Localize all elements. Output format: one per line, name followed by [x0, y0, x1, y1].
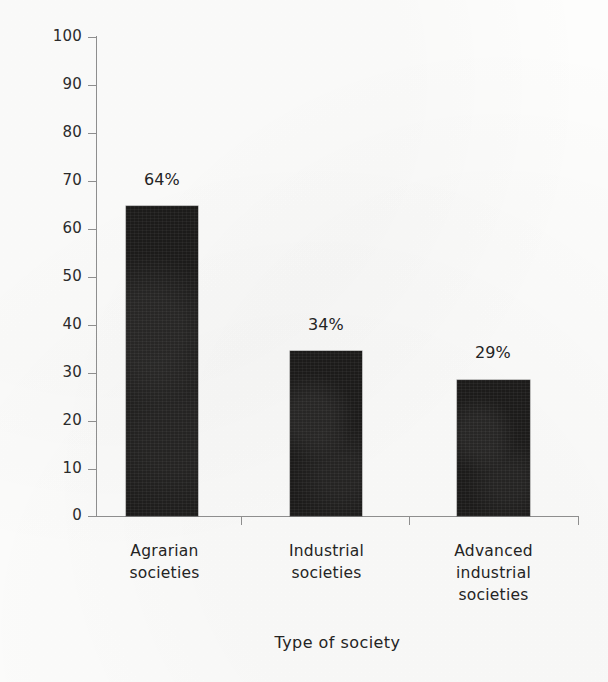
category-label-line: Advanced — [421, 540, 566, 562]
y-axis-tick-label: 60 — [36, 221, 82, 236]
x-axis-tick — [578, 516, 579, 525]
y-axis-tick-label: 90 — [36, 77, 82, 92]
y-axis-tick-label-text: 40 — [42, 317, 82, 332]
y-axis-tick-label-text: 50 — [42, 269, 82, 284]
y-axis-tick-label-text: 20 — [42, 413, 82, 428]
y-axis-tick-label-text: 0 — [42, 508, 82, 523]
x-axis-title: Type of society — [96, 634, 579, 652]
y-axis-tick — [88, 277, 96, 278]
y-axis-tick-label: 20 — [36, 413, 82, 428]
y-axis-tick — [88, 37, 96, 38]
y-axis-tick — [88, 421, 96, 422]
y-axis-tick — [88, 229, 96, 230]
x-axis-line — [96, 516, 579, 517]
y-axis-tick-label-text: 30 — [42, 365, 82, 380]
x-axis-tick — [241, 516, 242, 525]
y-axis-tick-label: 70 — [36, 173, 82, 188]
y-axis-tick — [88, 133, 96, 134]
y-axis-tick-label-text: 70 — [42, 173, 82, 188]
y-axis-tick — [88, 469, 96, 470]
bar-advanced-industrial-societies — [457, 380, 530, 516]
x-axis-tick — [409, 516, 410, 525]
bar-value-label-industrial: 34% — [276, 317, 376, 333]
y-axis-tick — [88, 373, 96, 374]
y-axis-tick-label-text: 80 — [42, 125, 82, 140]
y-axis-tick — [88, 181, 96, 182]
y-axis-tick-label: 0 — [36, 508, 82, 523]
bar-chart-figure: 100 90 80 70 60 50 40 30 — [0, 0, 608, 682]
x-axis-category-label-industrial: Industrial societies — [254, 540, 399, 584]
category-label-line: societies — [92, 562, 237, 584]
category-label-line: societies — [421, 584, 566, 606]
y-axis-tick-label: 10 — [36, 461, 82, 476]
y-axis-tick — [88, 516, 96, 517]
x-axis-category-label-agrarian: Agrarian societies — [92, 540, 237, 584]
y-axis-tick-label-text: 10 — [42, 461, 82, 476]
category-label-line: industrial — [421, 562, 566, 584]
y-axis-tick-label: 40 — [36, 317, 82, 332]
bar-value-label-advanced-industrial: 29% — [443, 345, 543, 361]
plot-area: 100 90 80 70 60 50 40 30 — [0, 0, 608, 682]
y-axis-tick-label-text: 60 — [42, 221, 82, 236]
x-axis-category-label-advanced-industrial: Advanced industrial societies — [421, 540, 566, 606]
category-label-line: Industrial — [254, 540, 399, 562]
y-axis-tick-label: 50 — [36, 269, 82, 284]
y-axis-tick-label-text: 90 — [42, 77, 82, 92]
bar-agrarian-societies — [126, 206, 198, 516]
category-label-line: societies — [254, 562, 399, 584]
y-axis-tick — [88, 85, 96, 86]
bar-industrial-societies — [290, 351, 362, 516]
bar-value-label-agrarian: 64% — [112, 172, 212, 188]
y-axis-tick-label: 100 — [36, 29, 82, 44]
y-axis-line — [96, 36, 97, 517]
y-axis-tick — [88, 325, 96, 326]
y-axis-tick-label: 80 — [36, 125, 82, 140]
y-axis-tick-label-text: 100 — [42, 29, 82, 44]
y-axis-tick-label: 30 — [36, 365, 82, 380]
category-label-line: Agrarian — [92, 540, 237, 562]
